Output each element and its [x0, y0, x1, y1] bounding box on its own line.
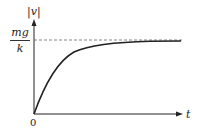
origin-label: 0: [30, 118, 36, 128]
fraction-bar: [10, 40, 30, 41]
x-axis-arrow-icon: [176, 112, 183, 117]
y-axis-arrow-icon: [32, 19, 37, 26]
velocity-curve: [34, 41, 181, 114]
asymptote-numerator: mg: [10, 27, 30, 38]
asymptote-label: mg k: [10, 27, 30, 54]
y-axis-label: |v|: [27, 6, 41, 17]
velocity-time-diagram: |v| mg k 0 t: [0, 0, 200, 135]
graph-canvas: [0, 0, 200, 135]
asymptote-denominator: k: [10, 43, 30, 54]
x-axis-label: t: [186, 109, 190, 120]
